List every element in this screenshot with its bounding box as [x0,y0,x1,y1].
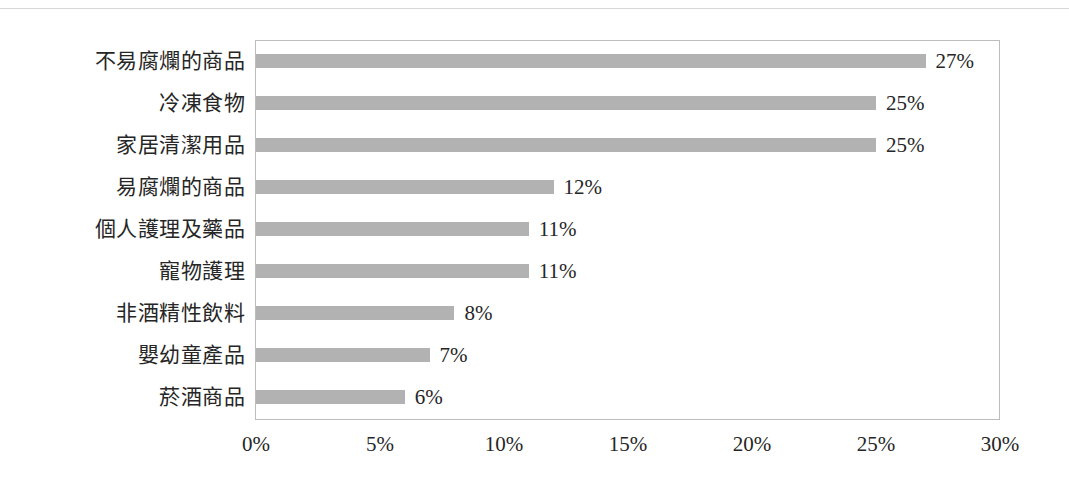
chart-page: 不易腐爛的商品27%冷凍食物25%家居清潔用品25%易腐爛的商品12%個人護理及… [0,0,1069,490]
bar-value-label: 8% [464,292,492,334]
bar-row: 冷凍食物25% [0,82,1069,124]
bar-row: 家居清潔用品25% [0,124,1069,166]
x-axis-tick-labels: 0%5%10%15%20%25%30% [0,424,1069,464]
bar-row: 嬰幼童產品7% [0,334,1069,376]
bar-value-label: 11% [539,208,577,250]
bar[interactable] [256,390,405,404]
bar-value-label: 11% [539,250,577,292]
bar-row: 易腐爛的商品12% [0,166,1069,208]
bar[interactable] [256,180,554,194]
bar-value-label: 27% [936,40,975,82]
bar-row: 不易腐爛的商品27% [0,40,1069,82]
bar-value-label: 6% [415,376,443,418]
bar-row: 菸酒商品6% [0,376,1069,418]
bar[interactable] [256,264,529,278]
bar-value-label: 7% [440,334,468,376]
category-label: 寵物護理 [0,250,245,292]
x-tick-label: 10% [464,424,544,464]
bar-row: 寵物護理11% [0,250,1069,292]
category-label: 冷凍食物 [0,82,245,124]
x-tick-label: 20% [712,424,792,464]
page-top-rule [0,8,1069,9]
bar[interactable] [256,306,454,320]
x-tick-label: 25% [836,424,916,464]
category-label: 嬰幼童產品 [0,334,245,376]
bar[interactable] [256,348,430,362]
bar[interactable] [256,138,876,152]
bar[interactable] [256,96,876,110]
category-label: 易腐爛的商品 [0,166,245,208]
category-label: 家居清潔用品 [0,124,245,166]
bar-row: 個人護理及藥品11% [0,208,1069,250]
bar[interactable] [256,222,529,236]
bar-value-label: 12% [564,166,603,208]
category-label: 不易腐爛的商品 [0,40,245,82]
bar[interactable] [256,54,926,68]
x-tick-label: 15% [588,424,668,464]
bar-value-label: 25% [886,82,925,124]
bar-value-label: 25% [886,124,925,166]
x-tick-label: 0% [216,424,296,464]
category-label: 個人護理及藥品 [0,208,245,250]
x-tick-label: 5% [340,424,420,464]
category-label: 非酒精性飲料 [0,292,245,334]
category-label: 菸酒商品 [0,376,245,418]
bar-row: 非酒精性飲料8% [0,292,1069,334]
x-tick-label: 30% [960,424,1040,464]
